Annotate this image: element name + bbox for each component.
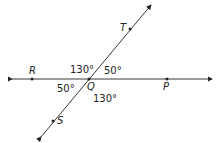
point-t-dot <box>129 28 132 31</box>
label-r: R <box>29 66 36 76</box>
label-s: S <box>57 116 63 126</box>
label-t: T <box>120 23 126 33</box>
point-r-dot <box>31 78 34 81</box>
angle-diagram: R Q P T S 130° 50° 50° 130° <box>0 0 221 143</box>
point-s-dot <box>52 120 55 123</box>
angle-sqp: 130° <box>93 94 117 104</box>
angle-tqp: 50° <box>104 66 122 76</box>
angle-rqt: 130° <box>70 65 94 75</box>
label-q: Q <box>87 82 95 92</box>
angle-rqs: 50° <box>57 84 75 94</box>
label-p: P <box>163 82 169 92</box>
